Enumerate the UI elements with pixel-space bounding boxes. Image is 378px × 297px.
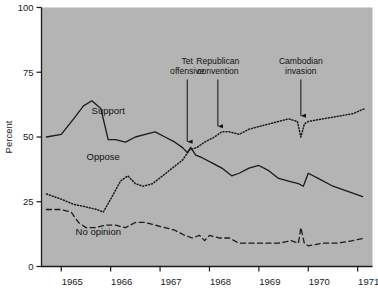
y-axis-tick-label: 0: [28, 261, 33, 272]
x-axis-tick-label: 1967: [160, 276, 181, 287]
chart-figure: 02550751001965196619671968196919701971Pe…: [0, 0, 378, 297]
y-axis-tick-label: 50: [23, 131, 34, 142]
series-label-oppose: Oppose: [87, 151, 120, 162]
annotation-label-line2: convention: [197, 66, 239, 76]
y-axis-title: Percent: [3, 120, 14, 153]
line-chart: 02550751001965196619671968196919701971Pe…: [0, 0, 378, 297]
series-label-no-opinion: No opinion: [76, 226, 121, 237]
x-axis-tick-label: 1966: [111, 276, 132, 287]
annotation-label-line1: Republican: [196, 56, 239, 66]
x-axis-tick-label: 1968: [210, 276, 231, 287]
annotation-label-line2: invasion: [285, 66, 317, 76]
annotation-label-line1: Cambodian: [279, 56, 323, 66]
annotation-label-line1: Tet: [182, 56, 194, 66]
series-label-support: Support: [92, 105, 126, 116]
x-axis-tick-label: 1971: [358, 276, 378, 287]
y-axis-tick-label: 75: [23, 67, 34, 78]
x-axis-tick-label: 1969: [259, 276, 280, 287]
y-axis-tick-label: 100: [18, 2, 34, 13]
x-axis-tick-label: 1965: [62, 276, 83, 287]
y-axis-tick-label: 25: [23, 196, 34, 207]
x-axis-tick-label: 1970: [309, 276, 330, 287]
